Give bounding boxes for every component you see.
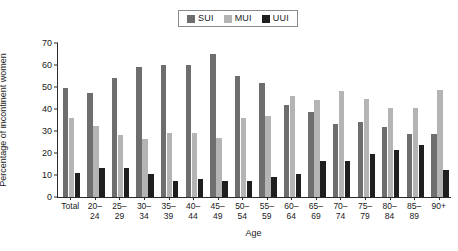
- bar-sui: [210, 54, 215, 197]
- bar-group: [259, 43, 276, 197]
- x-axis-tick-mark: [193, 197, 194, 200]
- bar-uui: [198, 179, 203, 197]
- bar-sui: [87, 93, 92, 198]
- bar-mui: [69, 118, 74, 197]
- bar-uui: [394, 150, 399, 197]
- y-axis-title: Percentage of incontinent women: [0, 43, 9, 197]
- bar-group: [358, 43, 375, 197]
- bar-uui: [148, 174, 153, 197]
- bar-mui: [290, 96, 295, 197]
- legend-swatch-icon: [262, 15, 270, 23]
- bar-mui: [241, 118, 246, 197]
- bar-uui: [345, 161, 350, 197]
- bars-layer: [58, 43, 451, 197]
- bar-sui: [358, 122, 363, 197]
- bar-mui: [413, 108, 418, 197]
- x-axis-tick-mark: [119, 197, 120, 200]
- bar-mui: [167, 133, 172, 197]
- legend-swatch-icon: [187, 15, 195, 23]
- bar-uui: [173, 181, 178, 198]
- bar-uui: [443, 170, 448, 197]
- bar-uui: [222, 181, 227, 197]
- legend-label: SUI: [198, 14, 214, 23]
- bar-group: [210, 43, 227, 197]
- bar-mui: [314, 100, 319, 197]
- x-axis-tick-mark: [144, 197, 145, 200]
- legend-entry-sui: SUI: [187, 14, 214, 23]
- x-axis-tick-mark: [242, 197, 243, 200]
- bar-group: [161, 43, 178, 197]
- bar-uui: [247, 181, 252, 197]
- chart-figure: SUIMUIUUI Percentage of incontinent wome…: [0, 0, 458, 251]
- bar-mui: [437, 90, 442, 197]
- bar-sui: [235, 76, 240, 197]
- bar-mui: [192, 133, 197, 197]
- legend-label: UUI: [273, 14, 289, 23]
- x-axis-tick-mark: [70, 197, 71, 200]
- bar-uui: [75, 173, 80, 197]
- x-axis-tick-mark: [291, 197, 292, 200]
- legend-swatch-icon: [224, 15, 232, 23]
- bar-sui: [284, 105, 289, 197]
- bar-uui: [320, 161, 325, 197]
- bar-sui: [308, 112, 313, 197]
- x-axis-tick-mark: [267, 197, 268, 200]
- bar-group: [112, 43, 129, 197]
- bar-mui: [388, 108, 393, 197]
- bar-sui: [382, 127, 387, 197]
- plot-area: 010203040506070 Total20– 2425– 2930– 343…: [57, 43, 451, 198]
- legend-entry-uui: UUI: [262, 14, 289, 23]
- bar-group: [136, 43, 153, 197]
- bar-sui: [136, 67, 141, 197]
- bar-sui: [431, 134, 436, 197]
- x-axis-title: Age: [57, 228, 450, 239]
- x-axis-tick-mark: [365, 197, 366, 200]
- x-axis-tick-mark: [414, 197, 415, 200]
- bar-sui: [333, 124, 338, 197]
- bar-group: [186, 43, 203, 197]
- bar-sui: [407, 134, 412, 197]
- bar-uui: [124, 168, 129, 197]
- bar-sui: [112, 78, 117, 197]
- bar-group: [308, 43, 325, 197]
- bar-group: [87, 43, 104, 197]
- bar-uui: [419, 145, 424, 197]
- bar-uui: [99, 168, 104, 197]
- bar-sui: [63, 88, 68, 197]
- bar-group: [63, 43, 80, 197]
- bar-mui: [265, 116, 270, 197]
- bar-group: [431, 43, 448, 197]
- bar-group: [407, 43, 424, 197]
- bar-uui: [370, 154, 375, 197]
- legend-label: MUI: [235, 14, 252, 23]
- bar-sui: [259, 83, 264, 197]
- bar-uui: [271, 177, 276, 197]
- x-axis-tick-mark: [340, 197, 341, 200]
- x-axis-tick-mark: [316, 197, 317, 200]
- x-axis-tick-mark: [218, 197, 219, 200]
- bar-mui: [142, 139, 147, 197]
- x-axis-tick-mark: [390, 197, 391, 200]
- bar-mui: [339, 91, 344, 197]
- legend-entry-mui: MUI: [224, 14, 252, 23]
- bar-mui: [118, 135, 123, 197]
- bar-uui: [296, 174, 301, 197]
- x-axis-tick-mark: [95, 197, 96, 200]
- chart-legend: SUIMUIUUI: [178, 10, 298, 27]
- x-axis-tick-mark: [439, 197, 440, 200]
- bar-group: [284, 43, 301, 197]
- bar-group: [382, 43, 399, 197]
- bar-sui: [186, 65, 191, 197]
- x-axis-tick-mark: [169, 197, 170, 200]
- bar-mui: [364, 99, 369, 197]
- bar-mui: [93, 126, 98, 198]
- bar-group: [333, 43, 350, 197]
- x-axis-tick-label: 90+: [424, 201, 454, 211]
- bar-group: [235, 43, 252, 197]
- bar-mui: [216, 138, 221, 197]
- bar-sui: [161, 65, 166, 197]
